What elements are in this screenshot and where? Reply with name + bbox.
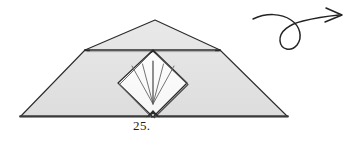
origami-step-figure: 25.	[0, 0, 354, 146]
figure-canvas	[0, 0, 354, 146]
turn-over-arrow-path	[253, 15, 339, 50]
turn-over-looping-arrow	[253, 8, 342, 49]
